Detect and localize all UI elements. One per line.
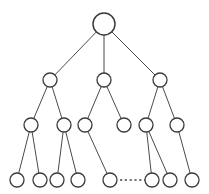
- tree-node: [97, 73, 111, 87]
- tree-node: [43, 73, 57, 87]
- tree-edge: [58, 132, 63, 172]
- node-circle: [57, 118, 71, 132]
- tree-diagram-figure: ——— —— —— ——— —— ————: [0, 0, 209, 194]
- tree-node-root: [93, 13, 115, 35]
- node-circle: [185, 173, 199, 187]
- tree-edge: [112, 32, 155, 75]
- tree-node: [50, 173, 64, 187]
- tree-node: [170, 118, 184, 132]
- tree-node: [71, 173, 85, 187]
- tree-node: [163, 173, 177, 187]
- tree-edge: [88, 132, 107, 173]
- tree-node: [153, 73, 167, 87]
- node-circle: [93, 13, 115, 35]
- tree-node: [57, 118, 71, 132]
- tree-edge: [163, 87, 175, 118]
- tree-edge: [32, 132, 39, 172]
- tree-node: [33, 173, 47, 187]
- tree-node: [185, 173, 199, 187]
- tree-node: [24, 118, 38, 132]
- node-circle: [163, 173, 177, 187]
- node-circle: [139, 118, 153, 132]
- tree-edge: [148, 87, 158, 118]
- node-circle: [153, 73, 167, 87]
- tree-edge: [107, 87, 121, 118]
- node-circle: [33, 173, 47, 187]
- tree-edge: [52, 87, 62, 118]
- tree-edge: [66, 132, 76, 172]
- tree-graphic: [0, 0, 209, 194]
- tree-node: [10, 173, 24, 187]
- tree-edge: [88, 87, 101, 118]
- node-circle: [24, 118, 38, 132]
- tree-edge: [149, 132, 167, 173]
- node-circle: [71, 173, 85, 187]
- tree-edge: [147, 132, 151, 172]
- node-circle: [103, 173, 117, 187]
- tree-edge: [19, 132, 29, 172]
- tree-node: [145, 173, 159, 187]
- tree-node: [117, 118, 131, 132]
- node-circle: [170, 118, 184, 132]
- node-circle: [78, 118, 92, 132]
- node-circle: [50, 173, 64, 187]
- tree-node: [103, 173, 117, 187]
- tree-edge: [34, 87, 47, 118]
- node-circle: [97, 73, 111, 87]
- tree-edge: [179, 132, 190, 173]
- tree-edge: [55, 32, 96, 74]
- node-circle: [10, 173, 24, 187]
- tree-node: [78, 118, 92, 132]
- tree-node: [139, 118, 153, 132]
- node-circle: [117, 118, 131, 132]
- edge-layer: [19, 32, 190, 173]
- node-circle: [145, 173, 159, 187]
- node-circle: [43, 73, 57, 87]
